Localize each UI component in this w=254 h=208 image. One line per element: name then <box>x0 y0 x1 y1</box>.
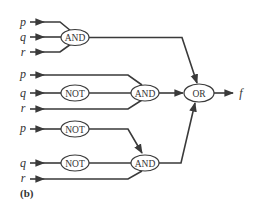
and-gate-bottom: AND <box>131 155 159 171</box>
svg-text:AND: AND <box>135 89 156 99</box>
wire <box>44 171 142 179</box>
input-label-q: q <box>20 30 26 44</box>
wire <box>44 44 71 52</box>
not-gate-middle: NOT <box>61 85 89 101</box>
or-gate: OR <box>184 84 214 102</box>
svg-text:AND: AND <box>65 33 86 43</box>
wire <box>44 75 142 85</box>
input-label-p: p <box>19 15 26 29</box>
wire-and3-to-or <box>159 103 195 163</box>
input-label-r: r <box>21 101 26 115</box>
not-gate-bottom-q: NOT <box>61 155 89 171</box>
input-label-r: r <box>21 171 26 185</box>
logic-circuit-diagram: p q r AND p q r NOT AND OR f <box>0 0 254 208</box>
output-label-f: f <box>239 86 244 100</box>
not-gate-bottom-p: NOT <box>61 121 89 137</box>
svg-text:NOT: NOT <box>65 89 85 99</box>
input-label-r: r <box>21 45 26 59</box>
svg-text:OR: OR <box>192 89 206 99</box>
wire <box>44 22 71 31</box>
wire <box>89 129 142 153</box>
input-label-q: q <box>20 156 26 170</box>
figure-caption: (b) <box>20 187 34 200</box>
wire-and1-to-or <box>89 38 197 84</box>
and-gate-middle: AND <box>131 85 159 101</box>
input-label-p: p <box>19 67 26 81</box>
input-label-p: p <box>19 121 26 135</box>
svg-text:NOT: NOT <box>65 159 85 169</box>
input-label-q: q <box>20 86 26 100</box>
svg-text:AND: AND <box>135 159 156 169</box>
wire <box>44 100 142 109</box>
svg-text:NOT: NOT <box>65 125 85 135</box>
and-gate-top: AND <box>61 30 89 46</box>
